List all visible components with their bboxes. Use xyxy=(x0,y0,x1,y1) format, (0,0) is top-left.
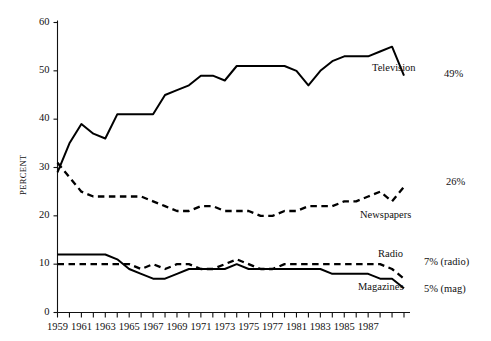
line-chart-plot xyxy=(0,0,491,341)
series-end-value-television: 49% xyxy=(444,68,463,79)
series-label-radio: Radio xyxy=(378,248,403,259)
y-tick-label: 0 xyxy=(18,306,50,317)
y-tick-label: 10 xyxy=(18,257,50,268)
y-tick-label: 50 xyxy=(18,64,50,75)
series-label-television: Television xyxy=(372,62,416,73)
series-end-value-newspapers: 26% xyxy=(446,176,465,187)
chart-container: PERCENT 0102030405060 195919611963196519… xyxy=(0,0,491,341)
x-tick-label: 1987 xyxy=(354,321,382,332)
series-line-radio xyxy=(58,259,405,278)
series-label-magazines: Magazines xyxy=(358,281,403,292)
series-end-value-magazines: 5% (mag) xyxy=(424,283,466,294)
series-line-magazines xyxy=(58,255,405,289)
series-line-television xyxy=(58,47,405,173)
y-tick-label: 20 xyxy=(18,209,50,220)
series-line-newspapers xyxy=(58,163,405,216)
y-tick-label: 40 xyxy=(18,112,50,123)
y-tick-label: 60 xyxy=(18,16,50,27)
series-label-newspapers: Newspapers xyxy=(360,209,411,220)
series-end-value-radio: 7% (radio) xyxy=(424,256,469,267)
data-series xyxy=(58,47,405,289)
y-tick-label: 30 xyxy=(18,161,50,172)
